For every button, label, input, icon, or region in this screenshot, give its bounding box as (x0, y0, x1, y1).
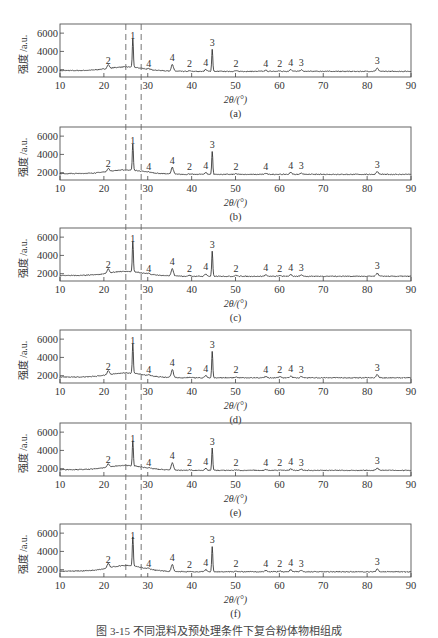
peak-label: 2 (233, 58, 238, 69)
xrd-panel-a: 200040006000102030405060708090强度 /a.u.2θ… (17, 24, 416, 120)
svg-text:4000: 4000 (37, 46, 58, 57)
peak-label: 3 (210, 239, 215, 250)
peak-label: 2 (187, 58, 192, 69)
svg-text:70: 70 (318, 80, 329, 91)
peak-label: 4 (288, 363, 293, 374)
peak-label: 4 (288, 57, 293, 68)
peak-label: 2 (106, 55, 111, 66)
svg-text:90: 90 (406, 580, 417, 591)
svg-text:70: 70 (318, 183, 329, 194)
svg-text:60: 60 (274, 183, 285, 194)
peak-label: 4 (170, 155, 175, 166)
peak-label: 2 (106, 361, 111, 372)
peak-label: 4 (146, 457, 151, 468)
peak-label: 4 (263, 262, 268, 273)
peak-label: 4 (170, 450, 175, 461)
peak-label: 4 (146, 58, 151, 69)
peak-label: 4 (170, 552, 175, 563)
svg-text:(f): (f) (230, 608, 241, 620)
peak-label: 2 (106, 259, 111, 270)
peak-label: 3 (299, 364, 304, 375)
svg-text:6000: 6000 (37, 232, 58, 243)
peak-label: 4 (203, 160, 208, 171)
peak-label: 2 (106, 158, 111, 169)
svg-text:10: 10 (55, 80, 66, 91)
peak-label: 3 (375, 556, 380, 567)
svg-text:70: 70 (318, 284, 329, 295)
peak-label: 2 (187, 263, 192, 274)
peak-label: 4 (170, 256, 175, 267)
peak-label: 4 (146, 161, 151, 172)
svg-text:6000: 6000 (37, 28, 58, 39)
peak-label: 4 (263, 161, 268, 172)
peak-label: 4 (288, 262, 293, 273)
peak-label: 4 (203, 456, 208, 467)
svg-text:80: 80 (362, 80, 373, 91)
svg-text:60: 60 (274, 386, 285, 397)
svg-text:2θ/(°): 2θ/(°) (224, 298, 248, 310)
peak-label: 4 (203, 57, 208, 68)
svg-text:2000: 2000 (37, 268, 58, 279)
peak-label: 4 (288, 557, 293, 568)
svg-text:30: 30 (143, 183, 154, 194)
svg-text:70: 70 (318, 580, 329, 591)
peak-label: 4 (170, 52, 175, 63)
svg-text:80: 80 (362, 183, 373, 194)
peak-label: 2 (106, 454, 111, 465)
peak-label: 4 (263, 457, 268, 468)
peak-label: 3 (210, 37, 215, 48)
xrd-panel-e: 200040006000102030405060708090强度 /a.u.2θ… (17, 423, 416, 519)
svg-text:6000: 6000 (37, 528, 58, 539)
svg-text:50: 50 (230, 80, 241, 91)
svg-text:40: 40 (186, 183, 197, 194)
peak-label: 1 (130, 135, 135, 146)
peak-label: 3 (299, 558, 304, 569)
svg-text:80: 80 (362, 284, 373, 295)
svg-text:20: 20 (99, 80, 110, 91)
svg-text:50: 50 (230, 183, 241, 194)
svg-text:20: 20 (99, 479, 110, 490)
peak-label: 2 (233, 364, 238, 375)
peak-label: 2 (233, 263, 238, 274)
svg-text:6000: 6000 (37, 131, 58, 142)
svg-text:20: 20 (99, 284, 110, 295)
svg-text:6000: 6000 (37, 334, 58, 345)
svg-text:80: 80 (362, 479, 373, 490)
svg-text:80: 80 (362, 386, 373, 397)
peak-label: 2 (277, 558, 282, 569)
svg-text:90: 90 (406, 386, 417, 397)
svg-text:4000: 4000 (37, 250, 58, 261)
svg-text:30: 30 (143, 386, 154, 397)
peak-label: 3 (299, 57, 304, 68)
peak-label: 3 (299, 457, 304, 468)
svg-text:强度 /a.u.: 强度 /a.u. (17, 239, 29, 279)
svg-text:50: 50 (230, 284, 241, 295)
svg-text:2θ/(°): 2θ/(°) (224, 94, 248, 106)
peak-label: 4 (263, 58, 268, 69)
svg-text:10: 10 (55, 386, 66, 397)
svg-text:强度 /a.u.: 强度 /a.u. (17, 341, 29, 381)
peak-label: 1 (130, 30, 135, 41)
svg-text:(e): (e) (230, 507, 242, 519)
peak-label: 4 (146, 263, 151, 274)
svg-text:30: 30 (143, 284, 154, 295)
svg-text:强度 /a.u.: 强度 /a.u. (17, 35, 29, 75)
svg-text:(d): (d) (229, 414, 242, 426)
peak-label: 3 (210, 339, 215, 350)
svg-text:4000: 4000 (37, 352, 58, 363)
peak-label: 4 (263, 364, 268, 375)
svg-text:90: 90 (406, 80, 417, 91)
peak-label: 2 (106, 554, 111, 565)
svg-text:2000: 2000 (37, 167, 58, 178)
peak-label: 4 (203, 557, 208, 568)
peak-label: 3 (375, 159, 380, 170)
svg-text:2θ/(°): 2θ/(°) (224, 594, 248, 606)
svg-text:2000: 2000 (37, 463, 58, 474)
svg-text:50: 50 (230, 479, 241, 490)
svg-text:90: 90 (406, 183, 417, 194)
svg-text:70: 70 (318, 479, 329, 490)
svg-text:60: 60 (274, 80, 285, 91)
svg-text:强度 /a.u.: 强度 /a.u. (17, 138, 29, 178)
peak-label: 1 (130, 433, 135, 444)
xrd-panel-c: 200040006000102030405060708090强度 /a.u.2θ… (17, 228, 416, 324)
